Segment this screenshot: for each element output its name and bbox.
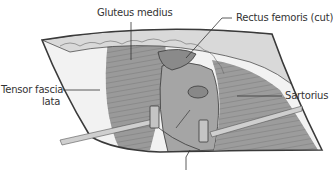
label-gluteus-medius: Gluteus medius xyxy=(97,7,172,18)
rectus-femoris-cut-stump xyxy=(188,86,208,98)
label-rectus-femoris: Rectus femoris (cut) xyxy=(236,12,333,23)
label-tensor-fascia-lata-line2: lata xyxy=(42,96,60,107)
label-sartorius: Sartorius xyxy=(285,90,328,101)
leader-unlabeled-bottom xyxy=(186,150,190,170)
label-tensor-fascia-lata-line1: Tensor fascia xyxy=(1,84,63,95)
hip-capsule xyxy=(160,63,219,152)
